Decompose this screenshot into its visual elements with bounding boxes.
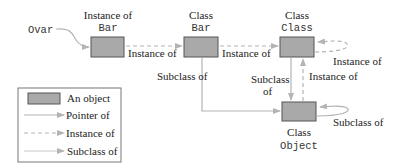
legend-label-subclass: Subclass of	[67, 145, 118, 157]
diagram: Ovar Instance of Bar Instance of Class B…	[0, 0, 404, 168]
class-bar-label: Class	[189, 9, 213, 21]
edge-label-class-subclass-2: of	[263, 85, 273, 97]
class-object-label: Class	[287, 126, 311, 138]
class-class-label: Class	[285, 9, 309, 21]
instance-bar-code: Bar	[99, 22, 118, 34]
legend-label-object: An object	[67, 92, 110, 104]
edge-label-instance-bar: Instance of	[128, 47, 177, 59]
class-class-box	[280, 37, 314, 57]
class-class-code: Class	[281, 22, 313, 34]
legend: An object Pointer of Instance of Subclas…	[18, 88, 121, 162]
instance-bar-label: Instance of	[84, 9, 133, 21]
edge-label-object-instance: Instance of	[309, 70, 358, 82]
edge-label-class-subclass-1: Subclass	[251, 73, 290, 85]
class-bar-code: Bar	[192, 22, 211, 34]
pointer-arrow	[56, 29, 89, 47]
edge-class-self-instance	[315, 41, 348, 52]
legend-object-swatch	[28, 93, 60, 104]
class-bar-box	[184, 37, 218, 57]
edge-label-object-self: Subclass of	[333, 116, 384, 128]
class-object-box	[282, 102, 316, 121]
legend-label-pointer: Pointer of	[66, 109, 110, 121]
legend-label-instance: Instance of	[66, 127, 115, 139]
edge-object-self-subclass	[317, 106, 348, 116]
instance-bar-box	[91, 37, 124, 57]
variable-ovar: Ovar	[28, 24, 53, 36]
class-object-code: Object	[280, 140, 318, 152]
edge-label-bar-class: Instance of	[222, 47, 271, 59]
edge-label-class-self: Instance of	[333, 55, 382, 67]
edge-label-bar-subclass: Subclass of	[157, 70, 208, 82]
